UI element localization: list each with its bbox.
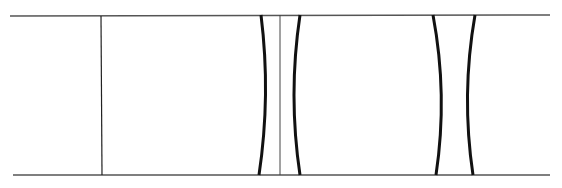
curve-a-left-bow — [294, 15, 300, 175]
curve-b-right-bow — [433, 15, 441, 175]
divider-left — [101, 16, 102, 175]
curve-b-left-bow — [467, 15, 475, 175]
line-diagram — [0, 0, 562, 188]
curve-a-right-bow — [259, 15, 266, 175]
